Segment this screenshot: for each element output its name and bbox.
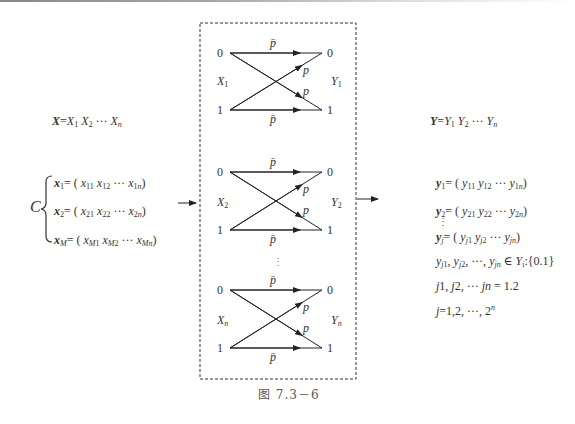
channel-2-top-prob: p̄ [270,155,276,170]
codeword-2: x2= ( x21 x22 ··· x2n) [54,204,146,219]
channel-2-input-0: 0 [217,165,223,180]
channel-2-output-label: Y2 [331,195,342,210]
channel-2-output-1: 1 [327,223,333,238]
channel-n-cross-down-prob: p [303,321,309,336]
channel-n-input-1: 1 [217,341,223,356]
channel-1-lines [230,53,322,110]
source-sequence: X=X1 X2 ··· Xn [52,114,122,129]
channel-n-top-prob: p̄ [270,273,276,288]
range-statement: j=1,2, ···, 2n [436,303,495,319]
channel-1-cross-up-prob: p [303,63,309,78]
channel-2-input-label: X2 [217,195,228,210]
channel-1-output-label: Y1 [331,74,342,89]
channel-1-output-1: 1 [327,103,333,118]
codebook-label: C [30,198,41,216]
output-word-1: y1= ( y11 y12 ··· y1n) [436,176,527,191]
figure-caption: 图 7.3－6 [258,385,320,402]
channel-n-input-label: Xn [217,313,228,328]
channel-1-cross-down-prob: p [303,84,309,99]
channel-n-lines [230,290,322,348]
channel-2-input-1: 1 [217,223,223,238]
channel-n-bottom-prob: p̄ [270,350,276,365]
channel-2-cross-up-prob: p [303,182,309,197]
codeword-1: x1= ( x11 x12 ··· x1n) [54,176,145,191]
channel-n-input-0: 0 [217,283,223,298]
channel-2-cross-down-prob: p [303,203,309,218]
channel-1-input-label: X1 [217,74,228,89]
output-words-ellipsis: ⋮ [438,216,448,227]
brace [41,176,52,242]
channel-1-input-1: 1 [217,103,223,118]
channel-2-bottom-prob: p̄ [270,232,276,247]
channel-1-input-0: 0 [217,46,223,61]
membership-statement: yj1, yj2, ···, yjn ∈ Yi:{0.1} [436,254,554,269]
channel-n-output-1: 1 [327,341,333,356]
output-sequence: Y=Y1 Y2 ··· Yn [430,114,497,129]
channel-2-lines [230,172,322,230]
channels-ellipsis: ⋮ [273,256,283,267]
channel-n-cross-up-prob: p [303,300,309,315]
index-statement: j1, j2, ··· jn = 1.2 [436,279,519,294]
channel-1-bottom-prob: p̄ [270,112,276,127]
codeword-M: xM= ( xM1 xM2 ··· xMn) [54,233,156,248]
channel-n-output-label: Yn [331,313,342,328]
channel-1-output-0: 0 [327,46,333,61]
channel-1-top-prob: p̄ [270,36,276,51]
output-word-2: y2= ( y21 y22 ··· y2n) [436,204,527,219]
channel-n-output-0: 0 [327,283,333,298]
output-word-j: yj= ( yj1 yj2 ··· yjn) [436,230,520,245]
channel-2-output-0: 0 [327,165,333,180]
